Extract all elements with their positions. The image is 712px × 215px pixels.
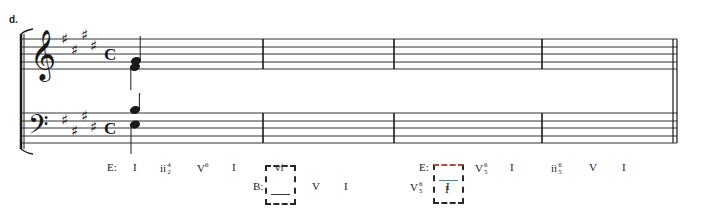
chord-symbol: V [589, 161, 597, 173]
analysis-row1-key2: E: [419, 162, 429, 173]
inversion-figure: 65 [419, 181, 423, 195]
svg-text:♯: ♯ [71, 122, 78, 140]
svg-text:♯: ♯ [81, 26, 88, 44]
analysis-row2-c12: I [344, 181, 348, 192]
analysis-row2-key3: B: [253, 181, 263, 192]
inversion-figure: 6 [205, 161, 209, 169]
analysis-row1-key1: E: [107, 162, 117, 173]
bass-time-signature: C [104, 119, 116, 138]
example-label: d. [9, 14, 18, 25]
analysis-row2-c13: V65 [410, 181, 422, 195]
bass-clef-icon: 𝄢 [28, 109, 49, 147]
svg-text:♯: ♯ [90, 37, 97, 55]
chord-symbol: ii [160, 162, 166, 174]
pivot-chord-symbol: I [445, 184, 449, 195]
svg-text:♯: ♯ [81, 107, 88, 125]
chord-symbol: B: [253, 180, 263, 192]
bass-staff [22, 113, 677, 143]
bass-chord [130, 93, 141, 154]
chord-symbol: V [197, 162, 205, 174]
inversion-figure: 65 [558, 162, 562, 176]
chord-symbol: I [133, 161, 137, 173]
analysis-row1-c1: I [133, 162, 137, 173]
treble-staff [22, 39, 677, 69]
analysis-row2-c11: V [312, 181, 320, 192]
chord-symbol: V [475, 162, 483, 174]
analysis-row1-c6: V65 [475, 162, 487, 176]
music-score: 𝄞 𝄢 ♯ ♯ ♯ ♯ ♯ ♯ ♯ ♯ C C [0, 0, 712, 215]
chord-symbol: I [622, 161, 626, 173]
svg-text:♯: ♯ [71, 41, 78, 59]
analysis-row1-c3: V6 [197, 162, 208, 174]
svg-text:♯: ♯ [61, 111, 68, 129]
chord-symbol: ii [551, 162, 557, 174]
pivot-chord-box [265, 165, 296, 205]
blank-answer-line[interactable] [271, 194, 290, 195]
treble-clef-icon: 𝄞 [30, 28, 56, 82]
bass-key-signature: ♯ ♯ ♯ ♯ [61, 107, 97, 140]
analysis-row1-c2: ii42 [160, 162, 171, 176]
svg-text:♯: ♯ [90, 118, 97, 136]
blank-answer-line[interactable] [439, 180, 458, 181]
treble-time-signature: C [104, 45, 116, 64]
analysis-row1-c10: I [622, 162, 626, 173]
chord-symbol: I [510, 161, 514, 173]
analysis-row1-c7: I [510, 162, 514, 173]
chord-symbol: E: [419, 161, 429, 173]
analysis-row1-c4: I [232, 162, 236, 173]
barlines [263, 39, 677, 143]
analysis-row1-c9: V [589, 162, 597, 173]
chord-symbol: E: [107, 161, 117, 173]
inversion-figure: 65 [484, 162, 488, 176]
treble-chord [130, 36, 142, 90]
inversion-figure: 42 [167, 162, 171, 176]
chord-symbol: V [410, 181, 418, 193]
chord-symbol: I [232, 161, 236, 173]
svg-text:♯: ♯ [61, 30, 68, 48]
chord-symbol: I [344, 180, 348, 192]
analysis-row1-c8: ii65 [551, 162, 562, 176]
chord-symbol: V [312, 180, 320, 192]
